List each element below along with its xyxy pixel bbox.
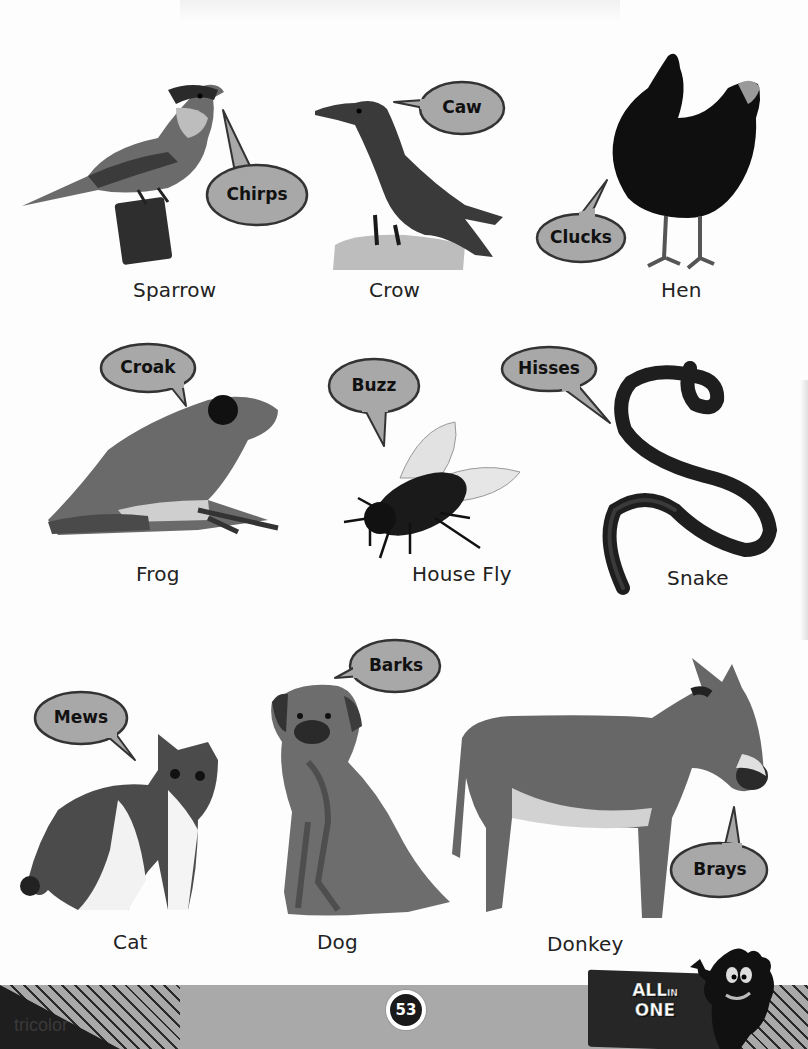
sparrow-image <box>18 78 228 263</box>
speech-bubble-clucks: Clucks <box>535 180 645 265</box>
speech-bubble-shape <box>535 180 645 265</box>
snake-icon <box>595 360 780 590</box>
sound-label: Mews <box>33 707 129 727</box>
animal-name-house-fly: House Fly <box>412 562 512 586</box>
series-badge: ALLIN ONE <box>620 982 690 1019</box>
sound-label: Barks <box>351 655 441 675</box>
speech-bubble-shape <box>205 110 315 228</box>
speech-bubble-mews: Mews <box>33 690 138 760</box>
dog-image <box>268 682 453 922</box>
animal-name-donkey: Donkey <box>547 932 624 956</box>
speech-bubble-chirps: Chirps <box>205 110 315 228</box>
page-edge-shadow <box>800 380 808 640</box>
sound-label: Buzz <box>326 375 422 395</box>
animal-name-crow: Crow <box>369 278 420 302</box>
animal-name-frog: Frog <box>136 562 180 586</box>
sound-label: Brays <box>672 859 768 879</box>
series-badge-line1: ALL <box>632 980 667 1000</box>
frog-image <box>38 390 283 540</box>
sound-label: Clucks <box>535 227 627 247</box>
animal-name-hen: Hen <box>661 278 702 302</box>
frog-icon <box>38 390 283 540</box>
speech-bubble-shape <box>326 358 426 448</box>
series-badge-line2: ONE <box>635 1000 675 1020</box>
animal-name-snake: Snake <box>667 566 729 590</box>
speech-bubble-shape <box>668 805 773 900</box>
sound-label: Hisses <box>500 358 598 378</box>
rooster-mascot-icon <box>690 945 780 1049</box>
page-number-badge: 53 <box>386 990 426 1030</box>
publisher-logo: tricolor <box>14 1015 68 1036</box>
dog-icon <box>268 682 453 922</box>
series-badge-small: IN <box>667 988 678 998</box>
speech-bubble-buzz: Buzz <box>326 358 426 448</box>
speech-bubble-barks: Barks <box>335 638 443 696</box>
sound-label: Caw <box>420 97 504 117</box>
speech-bubble-shape <box>500 345 615 425</box>
speech-bubble-brays: Brays <box>668 805 773 900</box>
speech-bubble-caw: Caw <box>392 80 507 140</box>
snake-image <box>595 360 780 590</box>
animal-name-dog: Dog <box>317 930 358 954</box>
animal-name-cat: Cat <box>113 930 148 954</box>
scan-shading <box>180 0 620 22</box>
speech-bubble-hisses: Hisses <box>500 345 615 425</box>
speech-bubble-croak: Croak <box>100 342 200 410</box>
sparrow-icon <box>18 78 228 263</box>
animal-name-sparrow: Sparrow <box>133 278 216 302</box>
workbook-page: Chirps Sparrow Caw Crow C <box>0 0 808 1049</box>
sound-label: Chirps <box>205 184 309 204</box>
sound-label: Croak <box>100 357 196 377</box>
